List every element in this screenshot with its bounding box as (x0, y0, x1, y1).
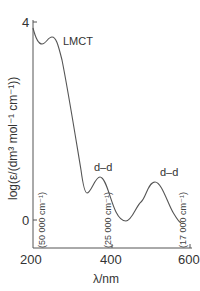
wavenumber-label-17000: (17 000 cm⁻¹) (178, 192, 188, 248)
y-tick-label-4: 4 (22, 15, 29, 30)
spectrum-chart: 4 0 200 400 600 λ/nm log(ε/(dm³ mol⁻¹ cm… (0, 0, 200, 291)
x-tick-label-200: 200 (20, 252, 42, 267)
dd-label-1: d–d (94, 161, 112, 173)
dd-label-2: d–d (160, 166, 178, 178)
y-tick-label-0: 0 (22, 213, 29, 228)
x-tick-label-600: 600 (178, 252, 200, 267)
x-tick-label-400: 400 (100, 252, 122, 267)
y-axis-label: log(ε/(dm³ mol⁻¹ cm⁻¹)) (6, 77, 20, 200)
x-axis-label: λ/nm (93, 272, 119, 286)
lmct-label: LMCT (63, 35, 93, 47)
wavenumber-label-50000: (50 000 cm⁻¹) (37, 192, 47, 248)
wavenumber-label-25000: (25 000 cm⁻¹) (103, 192, 113, 248)
